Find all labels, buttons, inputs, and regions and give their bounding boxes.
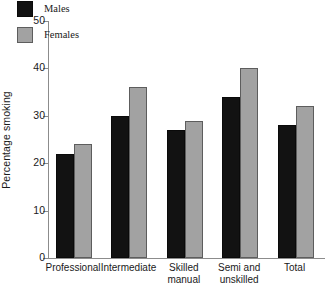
bar-females-0 (74, 144, 92, 258)
bar-group (167, 21, 203, 258)
category-label-0: Professional (45, 262, 100, 274)
y-axis-label: Percentage smoking (0, 20, 12, 260)
bar-group (222, 21, 258, 258)
legend-swatch-females-icon (17, 27, 33, 43)
y-tick-label: 20 (33, 156, 45, 168)
y-tick-label: 50 (33, 14, 45, 26)
y-tick-label: 0 (39, 251, 45, 263)
y-tick-label: 40 (33, 61, 45, 73)
bar-group (56, 21, 92, 258)
bar-chart: Percentage smoking 01020304050 Professio… (0, 0, 328, 298)
category-label-3: Semi and unskilled (212, 262, 267, 285)
legend-label-females: Females (44, 29, 79, 40)
bar-group (111, 21, 147, 258)
bar-males-1 (111, 116, 129, 258)
bar-males-2 (167, 130, 185, 258)
category-label-4: Total (267, 262, 322, 274)
legend-swatch-males-icon (17, 1, 33, 17)
legend-label-males: Males (44, 3, 70, 14)
bar-females-2 (185, 121, 203, 258)
x-axis-line (48, 258, 325, 259)
category-label-2: Skilled manual (156, 262, 211, 285)
bar-males-0 (56, 154, 74, 258)
category-label-1: Intermediate (101, 262, 156, 274)
plot-area: 01020304050 ProfessionalIntermediateSkil… (48, 21, 325, 258)
bar-series-container (49, 21, 325, 258)
bar-males-3 (222, 97, 240, 258)
bar-males-4 (278, 125, 296, 258)
bar-group (278, 21, 314, 258)
bar-females-3 (240, 68, 258, 258)
bar-females-1 (129, 87, 147, 258)
y-tick-label: 10 (33, 204, 45, 216)
bar-females-4 (296, 106, 314, 258)
y-tick-label: 30 (33, 109, 45, 121)
